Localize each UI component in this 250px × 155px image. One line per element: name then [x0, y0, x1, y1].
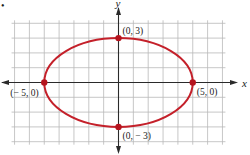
point-marker: [115, 35, 121, 41]
point-label: (0, − 3): [123, 131, 151, 142]
y-axis-label: y: [115, 0, 121, 9]
x-axis-label: x: [241, 77, 247, 89]
y-axis-arrow-bottom: [116, 146, 121, 154]
point-marker: [190, 79, 196, 85]
x-axis-arrow-left: [1, 80, 9, 85]
x-axis-arrow-right: [230, 80, 238, 85]
figure-marker: •: [1, 0, 5, 11]
point-marker: [41, 79, 47, 85]
point-label: (0, 3): [123, 26, 144, 37]
point-marker: [115, 124, 121, 130]
point-label: (5, 0): [197, 87, 218, 98]
ellipse-chart: • x y (0, 3)(− 5, 0)(5, 0)(0, − 3): [0, 0, 250, 155]
point-label: (− 5, 0): [10, 88, 38, 99]
labeled-points: (0, 3)(− 5, 0)(5, 0)(0, − 3): [10, 26, 217, 142]
